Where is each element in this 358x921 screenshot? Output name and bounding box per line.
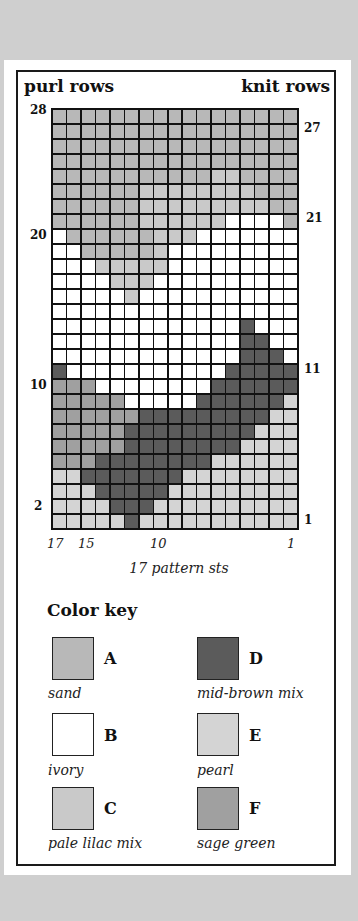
grid-cell — [140, 245, 153, 258]
grid-cell — [111, 305, 124, 318]
grid-cell — [255, 110, 268, 123]
grid-cell — [270, 230, 283, 243]
grid-cell — [241, 185, 254, 198]
grid-cell — [270, 500, 283, 513]
grid-cell — [212, 140, 225, 153]
grid-cell — [111, 140, 124, 153]
grid-cell — [96, 245, 109, 258]
grid-cell — [284, 470, 297, 483]
grid-cell — [197, 410, 210, 423]
grid-cell — [241, 395, 254, 408]
grid-cell — [140, 395, 153, 408]
grid-cell — [154, 200, 167, 213]
grid-cell — [125, 305, 138, 318]
grid-cell — [183, 290, 196, 303]
grid-cell — [212, 500, 225, 513]
grid-cell — [270, 215, 283, 228]
grid-cell — [226, 125, 239, 138]
grid-cell — [140, 275, 153, 288]
grid-cell — [284, 200, 297, 213]
grid-cell — [226, 155, 239, 168]
grid-cell — [67, 470, 80, 483]
grid-cell — [82, 470, 95, 483]
key-letter-d: D — [249, 649, 263, 668]
grid-cell — [169, 110, 182, 123]
grid-cell — [154, 515, 167, 528]
grid-cell — [284, 155, 297, 168]
grid-cell — [197, 155, 210, 168]
row-label-2: 2 — [34, 499, 42, 513]
grid-cell — [284, 215, 297, 228]
grid-cell — [212, 200, 225, 213]
grid-cell — [96, 380, 109, 393]
grid-cell — [125, 455, 138, 468]
key-letter-f: F — [249, 799, 260, 818]
grid-cell — [67, 290, 80, 303]
grid-cell — [270, 425, 283, 438]
grid-cell — [284, 380, 297, 393]
grid-cell — [154, 440, 167, 453]
grid-cell — [140, 260, 153, 273]
grid-cell — [183, 260, 196, 273]
grid-cell — [140, 485, 153, 498]
grid-cell — [111, 335, 124, 348]
grid-cell — [82, 260, 95, 273]
grid-cell — [241, 125, 254, 138]
grid-cell — [96, 185, 109, 198]
grid-cell — [140, 320, 153, 333]
grid-cell — [183, 230, 196, 243]
grid-cell — [197, 440, 210, 453]
grid-cell — [241, 455, 254, 468]
grid-cell — [212, 155, 225, 168]
grid-cell — [125, 125, 138, 138]
grid-cell — [212, 455, 225, 468]
grid-cell — [53, 440, 66, 453]
grid-cell — [140, 185, 153, 198]
grid-cell — [154, 500, 167, 513]
grid-cell — [226, 200, 239, 213]
grid-cell — [111, 500, 124, 513]
grid-cell — [212, 245, 225, 258]
grid-cell — [140, 140, 153, 153]
knitting-chart-grid — [51, 108, 299, 530]
grid-cell — [212, 440, 225, 453]
grid-cell — [140, 290, 153, 303]
grid-cell — [255, 335, 268, 348]
grid-cell — [183, 380, 196, 393]
grid-cell — [96, 305, 109, 318]
grid-cell — [255, 215, 268, 228]
grid-cell — [154, 155, 167, 168]
grid-cell — [241, 470, 254, 483]
grid-cell — [125, 380, 138, 393]
grid-cell — [53, 185, 66, 198]
grid-cell — [212, 260, 225, 273]
grid-cell — [82, 395, 95, 408]
key-letter-e: E — [249, 726, 261, 745]
grid-cell — [125, 395, 138, 408]
grid-cell — [53, 395, 66, 408]
grid-cell — [169, 275, 182, 288]
grid-cell — [197, 335, 210, 348]
grid-cell — [197, 365, 210, 378]
grid-cell — [125, 275, 138, 288]
grid-cell — [125, 110, 138, 123]
grid-cell — [183, 155, 196, 168]
grid-cell — [183, 125, 196, 138]
grid-cell — [241, 290, 254, 303]
grid-cell — [140, 170, 153, 183]
grid-cell — [82, 275, 95, 288]
grid-cell — [53, 275, 66, 288]
grid-cell — [226, 335, 239, 348]
grid-cell — [212, 305, 225, 318]
grid-cell — [183, 215, 196, 228]
grid-cell — [212, 110, 225, 123]
grid-cell — [197, 260, 210, 273]
grid-cell — [197, 500, 210, 513]
grid-cell — [212, 125, 225, 138]
grid-cell — [169, 470, 182, 483]
grid-cell — [183, 275, 196, 288]
grid-cell — [53, 170, 66, 183]
row-label-10: 10 — [30, 378, 47, 392]
grid-cell — [169, 185, 182, 198]
row-label-21: 21 — [306, 211, 323, 225]
